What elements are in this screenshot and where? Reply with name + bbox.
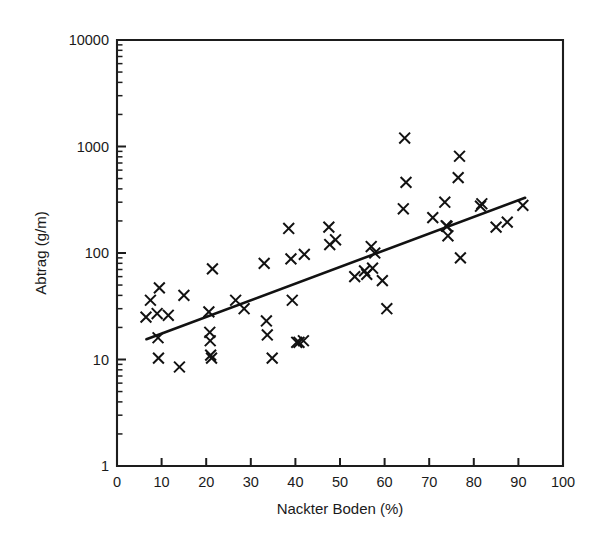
data-point-marker: [145, 295, 156, 306]
x-tick-label: 100: [551, 474, 575, 490]
x-tick-label: 20: [198, 474, 214, 490]
y-tick-label: 1: [101, 458, 109, 474]
x-tick-label: 0: [113, 474, 121, 490]
data-point-marker: [283, 223, 294, 234]
data-point-marker: [267, 353, 278, 364]
x-tick-label: 60: [377, 474, 393, 490]
data-point-marker: [259, 258, 270, 269]
x-tick-label: 30: [243, 474, 259, 490]
data-point-marker: [453, 172, 464, 183]
data-point-marker: [286, 254, 297, 265]
data-point-marker: [439, 197, 450, 208]
y-axis-title: Abtrag (g/m): [32, 211, 49, 294]
data-point-marker: [205, 335, 216, 346]
chart-figure: 1101001000100000102030405060708090100Nac…: [0, 0, 606, 538]
y-tick-label: 10: [93, 352, 109, 368]
data-point-marker: [399, 133, 410, 144]
x-tick-label: 80: [466, 474, 482, 490]
data-point-marker: [207, 263, 218, 274]
data-point-marker: [349, 271, 360, 282]
data-point-marker: [262, 330, 273, 341]
data-point-marker: [443, 230, 454, 241]
data-point-marker: [381, 303, 392, 314]
x-tick-label: 90: [510, 474, 526, 490]
data-point-marker: [163, 310, 174, 321]
data-point-marker: [154, 283, 165, 294]
y-tick-label: 1000: [77, 139, 109, 155]
data-points-group: [141, 133, 529, 373]
data-point-marker: [179, 290, 190, 301]
x-tick-label: 50: [332, 474, 348, 490]
data-point-marker: [517, 200, 528, 211]
regression-line: [146, 198, 525, 339]
data-point-marker: [299, 249, 310, 260]
data-point-marker: [152, 308, 163, 319]
data-point-marker: [455, 252, 466, 263]
x-tick-label: 40: [287, 474, 303, 490]
data-point-marker: [287, 295, 298, 306]
data-point-marker: [174, 362, 185, 373]
data-point-marker: [330, 234, 341, 245]
y-tick-label: 10000: [69, 32, 109, 48]
data-point-marker: [398, 203, 409, 214]
data-point-marker: [401, 177, 412, 188]
data-point-marker: [377, 275, 388, 286]
data-point-marker: [141, 312, 152, 323]
x-tick-label: 70: [421, 474, 437, 490]
x-axis-title: Nackter Boden (%): [277, 500, 404, 517]
x-tick-label: 10: [154, 474, 170, 490]
data-point-marker: [323, 222, 334, 233]
data-point-marker: [153, 353, 164, 364]
data-point-marker: [367, 263, 378, 274]
data-point-marker: [261, 316, 272, 327]
data-point-marker: [502, 217, 513, 228]
data-point-marker: [427, 212, 438, 223]
y-tick-label: 100: [85, 245, 109, 261]
scatter-plot: 1101001000100000102030405060708090100Nac…: [0, 0, 606, 538]
data-point-marker: [491, 222, 502, 233]
data-point-marker: [454, 151, 465, 162]
plot-frame: [117, 40, 563, 466]
